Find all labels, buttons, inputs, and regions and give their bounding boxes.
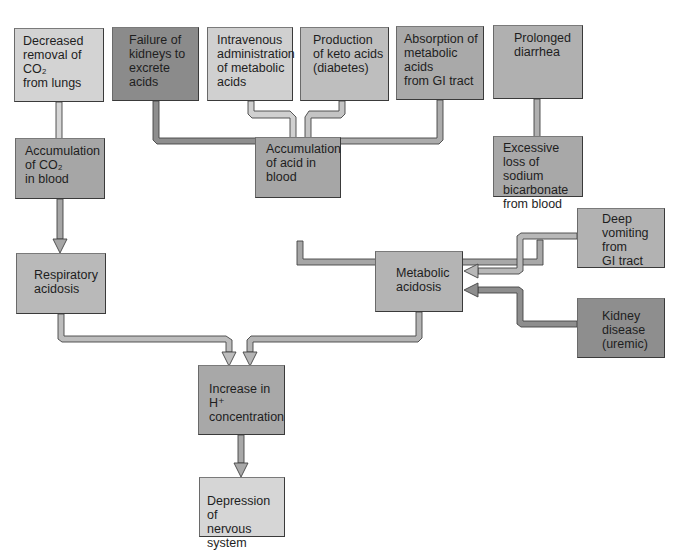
node-acid-accumulation: Accumulation of acid in blood (255, 137, 341, 198)
node-label: Metabolic acidosis (396, 266, 454, 294)
node-label: Absorption of metabolic acids from GI tr… (404, 32, 482, 88)
node-keto-acids: Production of keto acids (diabetes) (300, 27, 389, 101)
node-label: Deep vomiting from GI tract (602, 212, 656, 268)
node-metabolic-acidosis: Metabolic acidosis (375, 251, 463, 312)
node-label: Respiratory acidosis (34, 268, 97, 296)
node-decreased-co2-removal: Decreased removal of CO₂ from lungs (14, 28, 104, 102)
node-respiratory-acidosis: Respiratory acidosis (16, 253, 106, 314)
node-h-increase: Increase in H⁺ concentration (198, 365, 285, 435)
node-label: Accumulation of CO₂ in blood (25, 144, 102, 186)
arrow-metab-acidosis-to-h-increase (243, 312, 422, 366)
node-label: Failure of kidneys to excrete acids (129, 33, 190, 89)
node-label: Kidney disease (uremic) (602, 309, 656, 351)
arrow-co2-accum-to-resp-acidosis (53, 199, 67, 253)
node-gi-absorption: Absorption of metabolic acids from GI tr… (396, 26, 484, 100)
node-bicarbonate-loss: Excessive loss of sodium bicarbonate fro… (493, 136, 583, 197)
node-kidney-disease: Kidney disease (uremic) (577, 298, 665, 358)
node-prolonged-diarrhea: Prolonged diarrhea (493, 25, 583, 99)
node-deep-vomiting: Deep vomiting from GI tract (577, 208, 665, 268)
arrow-kidney-disease-to-metab-acidosis (464, 283, 577, 327)
node-label: Decreased removal of CO₂ from lungs (23, 34, 95, 90)
arrow-h-increase-to-cns-depression (234, 435, 248, 477)
node-co2-accumulation: Accumulation of CO₂ in blood (15, 138, 105, 199)
node-label: Depression of nervous system (207, 494, 283, 550)
arrow-vomiting-to-metab-acidosis (464, 233, 577, 278)
node-label: Prolonged diarrhea (514, 31, 574, 59)
node-label: Accumulation of acid in blood (266, 142, 339, 184)
node-label: Production of keto acids (diabetes) (313, 33, 386, 75)
node-nervous-system-depression: Depression of nervous system (199, 477, 285, 537)
arrow-resp-acidosis-to-h-increase (58, 314, 236, 366)
acidosis-flowchart: Decreased removal of CO₂ from lungs Fail… (0, 0, 674, 550)
node-label: Excessive loss of sodium bicarbonate fro… (503, 141, 581, 211)
node-label: Increase in H⁺ concentration (209, 382, 276, 424)
node-kidney-failure: Failure of kidneys to excrete acids (112, 27, 199, 101)
node-iv-administration: Intravenous administration of metabolic … (207, 27, 293, 101)
node-label: Intravenous administration of metabolic … (217, 33, 290, 89)
